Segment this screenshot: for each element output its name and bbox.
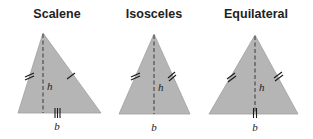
equilateral-title: Equilateral <box>224 7 288 21</box>
isosceles-base-label: b <box>151 121 157 133</box>
equilateral-triangle-figure: Equilateral h b <box>209 7 298 133</box>
scalene-triangle-figure: Scalene h b <box>18 7 101 132</box>
scalene-base-label: b <box>54 120 60 132</box>
isosceles-title: Isosceles <box>126 7 182 21</box>
scalene-triangle-shape <box>18 33 101 113</box>
isosceles-triangle-shape <box>119 34 190 114</box>
equilateral-height-label: h <box>259 81 265 93</box>
scalene-height-label: h <box>47 80 53 92</box>
isosceles-height-label: h <box>158 81 164 93</box>
scalene-title: Scalene <box>33 7 80 21</box>
isosceles-triangle-figure: Isosceles h b <box>119 7 190 133</box>
triangle-types-diagram: Scalene h b Isosceles h b <box>0 0 313 139</box>
equilateral-base-label: b <box>252 121 258 133</box>
equilateral-triangle-shape <box>209 35 298 114</box>
